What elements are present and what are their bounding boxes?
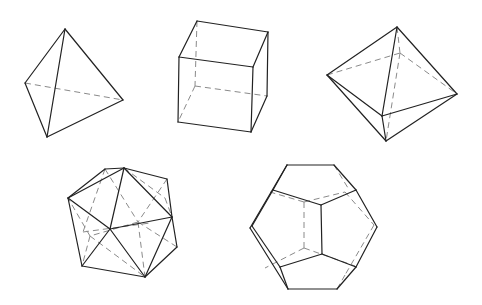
octahedron (327, 27, 457, 141)
tetrahedron-visible-edge (25, 83, 47, 137)
icosahedron-visible-edge (145, 217, 172, 277)
icosahedron-visible-edge (68, 168, 124, 198)
cube-visible-edge (253, 32, 268, 67)
icosahedron (68, 168, 177, 277)
dodecahedron-visible-edge (356, 227, 377, 267)
dodecahedron-hidden-edge (270, 192, 304, 202)
octahedron-visible-edge (327, 27, 397, 75)
cube-visible-edge (178, 57, 179, 122)
cube-visible-edge (178, 122, 251, 132)
cube-visible-edge (197, 21, 268, 32)
octahedron-visible-edge (386, 94, 457, 141)
cube-visible-edge (179, 21, 197, 57)
cube-hidden-edge (178, 86, 195, 122)
cube-visible-edge (267, 32, 268, 96)
octahedron-visible-edge (327, 75, 386, 141)
cube-visible-edge (251, 67, 253, 132)
tetrahedron (25, 29, 123, 137)
cube-visible-edge (251, 96, 267, 132)
cube-hidden-edge (195, 86, 267, 96)
dodecahedron-visible-edge (252, 190, 273, 226)
octahedron-visible-edge (382, 27, 397, 116)
dodecahedron-hidden-edge (334, 165, 348, 188)
cube-visible-edge (179, 57, 253, 67)
dodecahedron-visible-edge (337, 267, 356, 289)
icosahedron-visible-edge (68, 198, 82, 266)
dodecahedron-hidden-edge (345, 225, 374, 275)
tetrahedron-visible-edge (47, 29, 65, 137)
icosahedron-hidden-edge (138, 179, 167, 222)
icosahedron-visible-edge (82, 266, 145, 277)
icosahedron-visible-edge (110, 168, 124, 229)
platonic-solids-diagram (0, 0, 482, 305)
dodecahedron-visible-edge (250, 228, 288, 289)
icosahedron-visible-edge (110, 217, 172, 229)
icosahedron-hidden-edge (124, 168, 165, 198)
dodecahedron-visible-edge (321, 205, 322, 254)
dodecahedron-visible-edge (252, 226, 280, 267)
octahedron-hidden-edge (386, 53, 400, 141)
icosahedron-hidden-edge (90, 236, 145, 277)
tetrahedron-visible-edge (25, 29, 65, 83)
icosahedron-visible-edge (172, 217, 177, 247)
octahedron-visible-edge (327, 75, 382, 116)
icosahedron-visible-edge (124, 168, 167, 179)
dodecahedron-visible-edge (273, 190, 321, 205)
cube (178, 21, 268, 132)
icosahedron-visible-edge (68, 198, 110, 229)
octahedron-hidden-edge (400, 53, 457, 94)
cube-hidden-edge (195, 21, 197, 86)
dodecahedron-visible-edge (280, 254, 322, 267)
icosahedron-hidden-edge (138, 222, 177, 247)
dodecahedron-visible-edge (322, 254, 356, 267)
octahedron-visible-edge (397, 27, 457, 94)
tetrahedron-visible-edge (47, 100, 123, 137)
dodecahedron (250, 165, 377, 289)
dodecahedron-visible-edge (273, 165, 287, 190)
icosahedron-visible-edge (124, 168, 172, 217)
icosahedron-visible-edge (145, 247, 177, 277)
dodecahedron-visible-edge (321, 190, 356, 205)
tetrahedron-visible-edge (65, 29, 123, 100)
tetrahedron-hidden-edge (25, 83, 123, 100)
octahedron-hidden-edge (397, 27, 400, 53)
dodecahedron-visible-edge (334, 165, 356, 190)
